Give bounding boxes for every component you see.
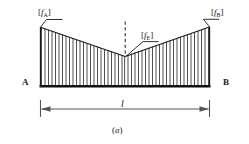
label-fe-subscript: E	[147, 35, 151, 41]
label-fb-subscript: B	[217, 12, 221, 18]
node-label-b: B	[223, 78, 229, 87]
node-label-a: A	[22, 78, 29, 87]
label-allowable-deflection-right: [fB]	[211, 8, 224, 17]
label-allowable-deflection-mid: [fE]	[141, 31, 153, 40]
dimension-label-span: l	[121, 99, 124, 109]
left-slope-edge	[41, 27, 126, 56]
leader-line-fa	[41, 20, 63, 28]
label-fe-close: ]	[150, 30, 153, 40]
caption-paren-close: )	[120, 125, 123, 135]
label-fa-subscript: A	[44, 12, 48, 18]
label-fa-close: ]	[48, 7, 51, 17]
figure-caption: (a)	[112, 126, 123, 135]
deflection-diagram-svg	[0, 0, 249, 144]
figure-container: [fA] [fB] [fE] A B l (a)	[0, 0, 249, 144]
right-slope-edge	[125, 27, 209, 57]
dimension-line-group	[41, 100, 210, 117]
label-allowable-deflection-left: [fA]	[38, 8, 51, 17]
leader-line-fb	[204, 19, 220, 27]
